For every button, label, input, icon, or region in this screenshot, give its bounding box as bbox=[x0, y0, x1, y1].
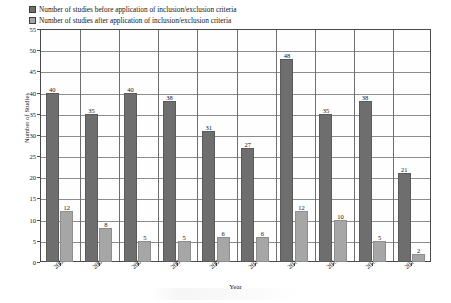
bar-2013-after: 5 bbox=[373, 241, 386, 262]
y-axis-tick-label: 55 bbox=[29, 26, 36, 33]
bar-value-label: 8 bbox=[104, 221, 107, 229]
y-axis-tick-label: 45 bbox=[29, 68, 36, 75]
bar-2006-before: 35 bbox=[85, 114, 98, 262]
legend-swatch-after bbox=[29, 17, 36, 24]
bar-2007-before: 40 bbox=[124, 93, 137, 262]
bar-group: 316 bbox=[196, 29, 235, 262]
bars-layer: 401235840538531627648123510385212 bbox=[40, 29, 431, 262]
bar-2014-after: 2 bbox=[412, 254, 425, 262]
legend-label-after: Number of studies after application of i… bbox=[39, 16, 231, 25]
bar-value-label: 35 bbox=[323, 107, 330, 115]
bar-value-label: 21 bbox=[401, 166, 408, 174]
bar-value-label: 6 bbox=[222, 230, 225, 238]
bar-2007-after: 5 bbox=[138, 241, 151, 262]
bar-2010-after: 6 bbox=[256, 237, 269, 262]
bar-group: 405 bbox=[118, 29, 157, 262]
bar-value-label: 5 bbox=[182, 234, 185, 242]
bar-2014-before: 21 bbox=[398, 173, 411, 262]
bar-value-label: 6 bbox=[261, 230, 264, 238]
chart-legend: Number of studies before application of … bbox=[29, 4, 289, 26]
y-axis-title: Number of Studies bbox=[23, 93, 30, 143]
legend-swatch-before bbox=[29, 6, 36, 13]
bar-2008-after: 5 bbox=[178, 241, 191, 262]
legend-item-after: Number of studies after application of i… bbox=[29, 15, 289, 25]
y-axis-tick-label: 25 bbox=[29, 153, 36, 160]
bar-group: 4812 bbox=[275, 29, 314, 262]
bar-2005-before: 40 bbox=[46, 93, 59, 262]
y-axis-tick-label: 0 bbox=[33, 259, 36, 266]
bar-group: 3510 bbox=[314, 29, 353, 262]
legend-item-before: Number of studies before application of … bbox=[29, 4, 289, 14]
y-axis: 0510152025303540455055 bbox=[0, 29, 40, 262]
bar-value-label: 40 bbox=[127, 86, 134, 94]
bar-2005-after: 12 bbox=[60, 211, 73, 262]
bar-value-label: 5 bbox=[143, 234, 146, 242]
bar-2009-before: 31 bbox=[202, 131, 215, 262]
bar-2012-before: 35 bbox=[319, 114, 332, 262]
bar-value-label: 40 bbox=[49, 86, 56, 94]
bar-value-label: 10 bbox=[337, 213, 344, 221]
bar-2008-before: 38 bbox=[163, 101, 176, 262]
bar-2006-after: 8 bbox=[99, 228, 112, 262]
bar-value-label: 27 bbox=[245, 141, 252, 149]
legend-label-before: Number of studies before application of … bbox=[39, 5, 237, 14]
bar-value-label: 12 bbox=[64, 204, 71, 212]
bar-value-label: 2 bbox=[417, 247, 420, 255]
y-axis-tick-label: 50 bbox=[29, 47, 36, 54]
bar-2011-before: 48 bbox=[280, 59, 293, 262]
bar-value-label: 31 bbox=[205, 124, 212, 132]
bar-2012-after: 10 bbox=[334, 220, 347, 262]
bar-group: 358 bbox=[79, 29, 118, 262]
bar-2013-before: 38 bbox=[359, 101, 372, 262]
bar-group: 212 bbox=[392, 29, 431, 262]
y-axis-tick-label: 5 bbox=[33, 237, 36, 244]
bar-group: 4012 bbox=[40, 29, 79, 262]
bar-2010-before: 27 bbox=[241, 148, 254, 262]
y-axis-tick-label: 15 bbox=[29, 195, 36, 202]
y-axis-tick-label: 20 bbox=[29, 174, 36, 181]
bar-value-label: 5 bbox=[378, 234, 381, 242]
bar-value-label: 35 bbox=[88, 107, 95, 115]
page-artifact bbox=[150, 288, 300, 300]
bar-value-label: 38 bbox=[362, 94, 369, 102]
bar-group: 385 bbox=[353, 29, 392, 262]
y-axis-tick-label: 10 bbox=[29, 216, 36, 223]
bar-value-label: 48 bbox=[284, 52, 291, 60]
bar-2009-after: 6 bbox=[217, 237, 230, 262]
bar-group: 276 bbox=[236, 29, 275, 262]
bar-chart: Number of studies before application of … bbox=[0, 0, 451, 303]
bar-group: 385 bbox=[157, 29, 196, 262]
bar-value-label: 12 bbox=[298, 204, 305, 212]
bar-value-label: 38 bbox=[166, 94, 173, 102]
bar-2011-after: 12 bbox=[295, 211, 308, 262]
